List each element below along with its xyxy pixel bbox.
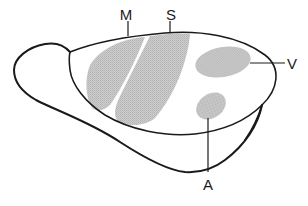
cortical-areas — [86, 33, 253, 125]
auditory-label: A — [203, 176, 213, 193]
cortex-lower-rim — [245, 105, 262, 140]
visual-label: V — [287, 55, 297, 72]
visual-area — [193, 42, 253, 81]
somatosensory-label: S — [166, 6, 176, 23]
brain-diagram: M S V A — [0, 0, 308, 206]
auditory-area — [191, 87, 231, 125]
motor-label: M — [120, 6, 133, 23]
